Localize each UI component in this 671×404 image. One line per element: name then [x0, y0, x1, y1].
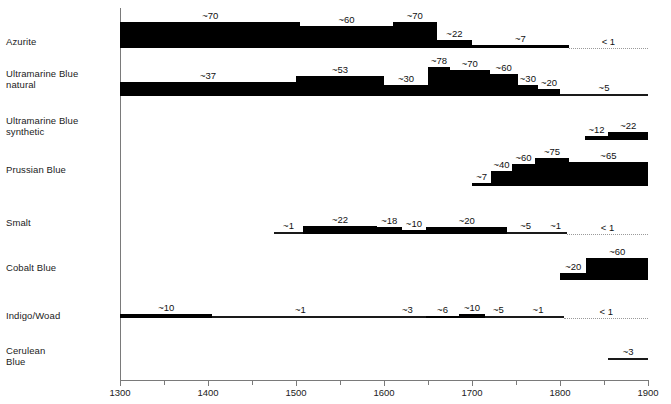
row-label-ultramarine-blue-synthetic: Ultramarine Blue synthetic	[6, 115, 78, 137]
segment-smalt-5	[507, 232, 544, 234]
pigment-timeline-chart: 1300140015001600170018001900 ~70~60~70~2…	[0, 0, 671, 404]
segment-value-label: < 1	[599, 306, 612, 317]
segment-value-label: ~1	[550, 220, 561, 231]
segment-value-label: ~5	[520, 220, 531, 231]
segment-azurite-0	[120, 22, 300, 48]
x-tick-1850	[604, 380, 605, 385]
segment-smalt-1	[303, 226, 377, 234]
segment-value-label: ~10	[406, 218, 422, 229]
segment-ultramarine-blue-synthetic-1	[608, 132, 648, 140]
segment-value-label: ~20	[541, 77, 557, 88]
segment-smalt-3	[402, 230, 427, 234]
segment-azurite-4	[472, 45, 569, 48]
x-tick-label-1400: 1400	[197, 387, 218, 398]
segment-value-label: ~1	[295, 304, 306, 315]
segment-value-label: ~37	[200, 70, 216, 81]
x-tick-label-1900: 1900	[637, 387, 658, 398]
row-label-indigo-woad: Indigo/Woad	[6, 310, 60, 321]
segment-prussian-blue-0	[472, 183, 491, 186]
segment-prussian-blue-3	[535, 158, 568, 186]
row-label-cobalt-blue: Cobalt Blue	[6, 262, 56, 273]
segment-value-label: ~10	[464, 302, 480, 313]
segment-indigo-woad-5	[485, 316, 511, 318]
segment-indigo-woad-1	[212, 316, 388, 318]
segment-value-label: ~20	[565, 261, 581, 272]
x-tick-1400	[208, 380, 209, 386]
segment-ultramarine-blue-natural-2	[384, 85, 428, 96]
segment-value-label: ~65	[600, 150, 616, 161]
row-label-prussian-blue: Prussian Blue	[6, 164, 66, 175]
segment-indigo-woad-6	[512, 316, 565, 318]
segment-value-label: ~3	[623, 346, 634, 357]
segment-value-label: ~20	[459, 215, 475, 226]
segment-smalt-4	[426, 227, 507, 234]
segment-indigo-woad-4	[459, 314, 485, 318]
segment-value-label: ~60	[609, 246, 625, 257]
segment-ultramarine-blue-natural-7	[538, 89, 560, 96]
segment-cerulean-blue-0	[608, 358, 648, 360]
segment-value-label: ~5	[599, 82, 610, 93]
segment-value-label: ~1	[533, 304, 544, 315]
segment-value-label: ~22	[332, 214, 348, 225]
segment-indigo-woad-3	[426, 316, 459, 318]
segment-ultramarine-blue-synthetic-0	[585, 136, 609, 140]
plot-area: 1300140015001600170018001900 ~70~60~70~2…	[0, 0, 671, 404]
row-label-ultramarine-blue-natural: Ultramarine Blue natural	[6, 68, 78, 90]
x-tick-1550	[340, 380, 341, 385]
x-tick-label-1700: 1700	[461, 387, 482, 398]
segment-value-label: ~22	[620, 120, 636, 131]
segment-ultramarine-blue-natural-1	[296, 76, 384, 96]
segment-azurite-1	[300, 26, 392, 48]
segment-smalt-0	[274, 232, 303, 234]
segment-smalt-7	[567, 234, 648, 235]
x-tick-label-1600: 1600	[373, 387, 394, 398]
segment-value-label: ~75	[544, 146, 560, 157]
segment-azurite-2	[393, 22, 437, 48]
segment-smalt-6	[544, 232, 567, 234]
x-tick-1800	[560, 380, 561, 386]
segment-value-label: ~22	[446, 28, 462, 39]
segment-cobalt-blue-0	[560, 273, 586, 280]
segment-ultramarine-blue-natural-3	[428, 67, 450, 96]
segment-value-label: ~5	[493, 304, 504, 315]
segment-value-label: ~18	[381, 215, 397, 226]
row-label-azurite: Azurite	[6, 36, 36, 47]
row-label-cerulean-blue: Cerulean Blue	[6, 345, 45, 367]
segment-value-label: ~53	[332, 64, 348, 75]
segment-indigo-woad-2	[388, 316, 426, 318]
segment-prussian-blue-1	[491, 171, 511, 186]
segment-smalt-2	[377, 227, 402, 234]
segment-value-label: ~60	[496, 62, 512, 73]
segment-ultramarine-blue-natural-5	[490, 74, 518, 96]
segment-value-label: ~70	[202, 10, 218, 21]
segment-value-label: ~78	[431, 55, 447, 66]
x-tick-1500	[296, 380, 297, 386]
x-tick-1900	[648, 380, 649, 386]
x-tick-1700	[472, 380, 473, 386]
x-tick-label-1300: 1300	[109, 387, 130, 398]
segment-value-label: ~1	[283, 220, 294, 231]
segment-value-label: ~70	[407, 10, 423, 21]
segment-value-label: ~60	[339, 14, 355, 25]
x-tick-1600	[384, 380, 385, 386]
segment-azurite-3	[437, 40, 472, 48]
x-tick-1300	[120, 380, 121, 386]
x-tick-1650	[428, 380, 429, 385]
segment-value-label: ~6	[437, 304, 448, 315]
segment-ultramarine-blue-natural-4	[450, 70, 490, 96]
segment-indigo-woad-7	[564, 318, 648, 319]
segment-cobalt-blue-1	[586, 258, 648, 280]
segment-value-label: < 1	[602, 36, 615, 47]
segment-value-label: ~70	[462, 58, 478, 69]
segment-ultramarine-blue-natural-6	[518, 85, 538, 96]
segment-value-label: ~10	[158, 302, 174, 313]
segment-value-label: ~30	[398, 73, 414, 84]
segment-azurite-5	[569, 48, 648, 49]
segment-value-label: ~3	[402, 304, 413, 315]
x-tick-label-1800: 1800	[549, 387, 570, 398]
segment-indigo-woad-0	[120, 314, 212, 318]
x-tick-1350	[164, 380, 165, 385]
y-axis-line	[120, 8, 121, 380]
segment-value-label: < 1	[601, 222, 614, 233]
segment-ultramarine-blue-natural-0	[120, 82, 296, 96]
